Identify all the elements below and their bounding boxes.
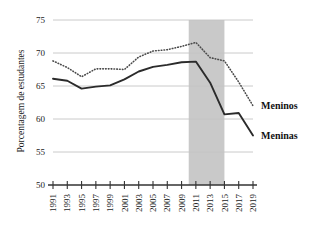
y-tick-label: 55 <box>36 147 46 157</box>
x-tick-label: 2007 <box>162 194 172 213</box>
x-tick-label: 2015 <box>220 194 230 213</box>
x-tick-label: 1999 <box>105 194 115 213</box>
x-tick-label: 2003 <box>134 194 144 213</box>
y-tick-label: 70 <box>36 48 46 58</box>
y-tick-label: 60 <box>36 114 46 124</box>
x-tick-label: 2017 <box>234 194 244 213</box>
chart-background <box>0 0 311 228</box>
y-tick-label: 65 <box>36 81 46 91</box>
x-tick-label: 2013 <box>205 194 215 213</box>
x-tick-label: 1993 <box>62 194 72 213</box>
x-tick-label: 2005 <box>148 194 158 213</box>
x-tick-label: 1995 <box>77 194 87 213</box>
x-tick-label: 2001 <box>120 194 130 212</box>
series-label-meninas: Meninas <box>261 130 298 141</box>
series-label-meninos: Meninos <box>261 100 298 111</box>
x-tick-label: 2009 <box>177 194 187 213</box>
x-axis-tick-labels: 1991199319951997199920012003200520072009… <box>48 194 258 213</box>
y-axis-title: Porcentagem de estudantes <box>16 49 26 152</box>
y-tick-label: 50 <box>36 180 46 190</box>
chart-container: 505560657075 199119931995199719992001200… <box>0 0 311 228</box>
x-tick-label: 1991 <box>48 194 58 212</box>
x-tick-label: 1997 <box>91 194 101 213</box>
x-tick-label: 2019 <box>248 194 258 213</box>
y-tick-label: 75 <box>36 15 46 25</box>
x-tick-label: 2011 <box>191 194 201 212</box>
line-chart: 505560657075 199119931995199719992001200… <box>0 0 311 228</box>
